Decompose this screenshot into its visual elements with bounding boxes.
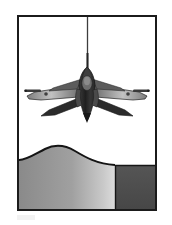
scene-illustration xyxy=(19,17,155,209)
left-wingtip-missile xyxy=(24,90,41,93)
right-wingtip-missile xyxy=(133,90,150,93)
caption-strip xyxy=(17,215,35,220)
left-wing-marking xyxy=(44,92,48,96)
figure-root xyxy=(0,0,172,225)
right-wing-marking xyxy=(126,92,130,96)
canopy-highlight xyxy=(84,77,90,85)
dark-terrain-block xyxy=(115,165,155,209)
figure-frame xyxy=(17,15,157,211)
